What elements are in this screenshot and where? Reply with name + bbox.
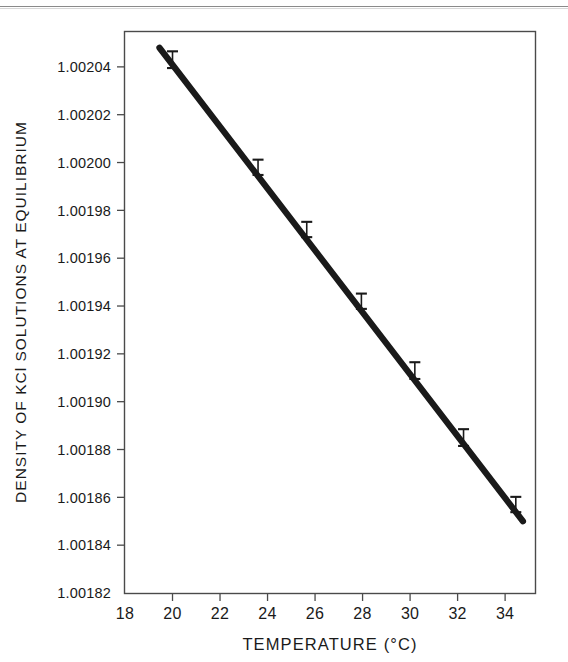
y-tick-label: 1.00204: [57, 59, 111, 75]
error-bars-group: [167, 51, 521, 512]
y-axis-tick-labels: 1.001821.001841.001861.001881.001901.001…: [57, 59, 111, 601]
data-series-group: [159, 48, 522, 522]
y-tick-label: 1.00188: [57, 442, 111, 458]
x-tick-label: 26: [306, 605, 324, 622]
y-tick-label: 1.00194: [57, 298, 111, 314]
y-tick-label: 1.00186: [57, 490, 111, 506]
y-tick-label: 1.00198: [57, 203, 111, 219]
x-axis-tick-labels: 182022242628303234: [116, 605, 515, 622]
figure-page: 1.001821.001841.001861.001881.001901.001…: [0, 0, 568, 662]
y-axis-title: DENSITY OF KCl SOLUTIONS AT EQUILIBRIUM: [12, 121, 29, 503]
plot-frame: [125, 32, 536, 594]
y-tick-label: 1.00202: [57, 107, 111, 123]
x-axis-title: TEMPERATURE (°C): [242, 635, 417, 653]
y-tick-label: 1.00182: [57, 585, 111, 601]
y-tick-label: 1.00190: [57, 394, 111, 410]
x-tick-label: 32: [448, 605, 466, 622]
trend-line: [159, 48, 522, 522]
y-tick-label: 1.00192: [57, 346, 111, 362]
x-tick-label: 20: [163, 605, 181, 622]
scatter-line-plot: 1.001821.001841.001861.001881.001901.001…: [0, 0, 568, 662]
x-tick-label: 24: [258, 605, 276, 622]
x-tick-label: 30: [401, 605, 419, 622]
y-tick-label: 1.00184: [57, 537, 111, 553]
x-tick-label: 18: [116, 605, 134, 622]
y-tick-label: 1.00200: [57, 155, 111, 171]
y-tick-label: 1.00196: [57, 250, 111, 266]
x-tick-label: 22: [211, 605, 229, 622]
x-tick-label: 28: [353, 605, 371, 622]
x-tick-label: 34: [496, 605, 514, 622]
chart-figure: 1.001821.001841.001861.001881.001901.001…: [0, 0, 568, 662]
